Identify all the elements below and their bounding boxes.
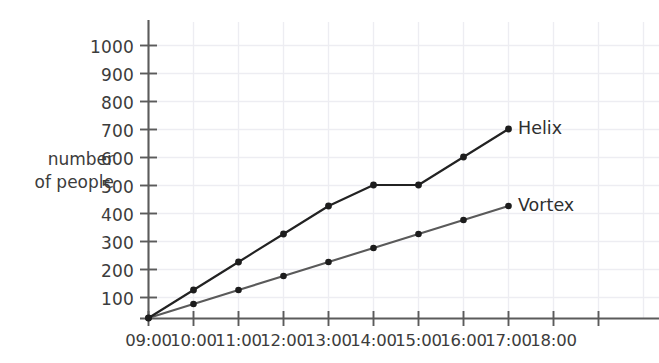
x-tick-label-1800: 18:00 [521,333,586,350]
series-label-helix: Helix [518,120,562,138]
line-chart: 100 200 300 400 500 600 700 800 900 1000… [0,0,659,363]
series-label-vortex: Vortex [518,197,574,215]
y-tick-label-800: 800 [52,95,134,112]
y-tick-label-900: 900 [52,67,134,84]
y-tick-label-300: 300 [52,235,134,252]
horizontal-gridlines [148,46,659,298]
y-tick-label-700: 700 [52,123,134,140]
y-tick-label-100: 100 [52,291,134,308]
y-axis-title-line2: of people [6,171,114,194]
y-axis-title-line1: number [6,148,114,171]
y-tick-label-200: 200 [52,263,134,280]
y-axis-title: number of people [6,148,114,194]
y-tick-label-1000: 1000 [52,39,134,56]
vertical-gridlines [149,22,644,318]
y-tick-label-400: 400 [52,207,134,224]
